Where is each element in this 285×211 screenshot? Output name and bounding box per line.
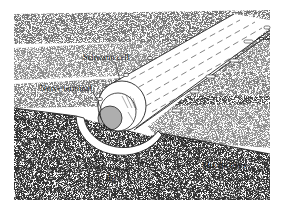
label-muscle-fiber: Muscle fiber [202, 160, 246, 170]
label-nerve-terminal: Nerve terminal [40, 83, 92, 93]
label-scale-bar: 1μ [107, 172, 116, 182]
neuromuscular-junction-diagram: Schwann cell Nerve terminal Muscle fiber… [0, 0, 285, 211]
label-schwann-cell: Schwann cell [83, 52, 130, 62]
